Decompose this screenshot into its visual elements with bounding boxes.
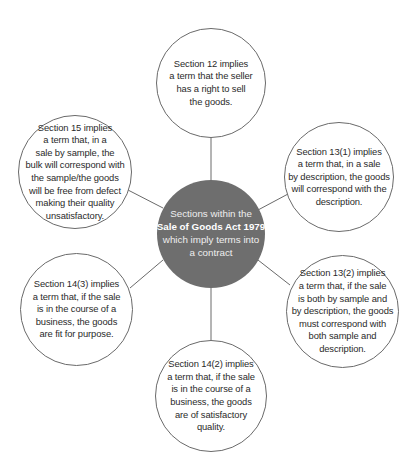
text-line: Section 14(3) implies [33, 278, 121, 291]
text-line: is both by sample and [292, 293, 394, 306]
text-line: both sample and [292, 330, 394, 343]
text-line: Section 12 implies [169, 58, 252, 71]
text-line: a contract [157, 247, 266, 260]
text-line: are fit for purpose. [33, 328, 121, 341]
text-line: business, the goods [33, 316, 121, 329]
text-line: will correspond with the [288, 183, 390, 196]
node-section-13-1-text: Section 13(1) implies a term that, in a … [282, 146, 396, 209]
text-line: unsatisfactory. [25, 210, 124, 223]
node-section-14-3: Section 14(3) implies a term that, if th… [20, 253, 133, 366]
text-line: has a right to sell [169, 83, 252, 96]
text-line: quality. [167, 421, 255, 434]
text-line: a term that, in a [25, 134, 124, 147]
node-section-15: Section 15 implies a term that, in a sal… [18, 115, 132, 229]
text-line: making their quality [25, 197, 124, 210]
text-line: description. [292, 343, 394, 356]
text-line: by description, the goods [288, 171, 390, 184]
text-line: sale by sample, the [25, 147, 124, 160]
text-line: by description, the goods [292, 305, 394, 318]
node-section-14-3-text: Section 14(3) implies a term that, if th… [27, 278, 127, 341]
text-line: a term that, if the sale [292, 280, 394, 293]
text-line: a term that the seller [169, 70, 252, 83]
act-title: Sale of Goods Act 1979 [157, 221, 266, 234]
text-line: a term that, in a sale [288, 158, 390, 171]
node-section-14-2: Section 14(2) implies a term that, if th… [155, 340, 267, 452]
text-line: which imply terms into [157, 234, 266, 247]
center-hub-text: Sections within the Sale of Goods Act 19… [151, 208, 272, 259]
node-section-12: Section 12 implies a term that the selle… [156, 28, 266, 138]
text-line: a term that, if the sale [167, 371, 255, 384]
text-line: the sample/the goods [25, 172, 124, 185]
text-line: must correspond with [292, 318, 394, 331]
node-section-13-2-text: Section 13(2) implies a term that, if th… [286, 267, 400, 355]
text-line: Section 13(1) implies [288, 146, 390, 159]
text-line: will be free from defect [25, 185, 124, 198]
text-line: Section 14(2) implies [167, 358, 255, 371]
node-section-14-2-text: Section 14(2) implies a term that, if th… [161, 358, 261, 434]
node-section-12-text: Section 12 implies a term that the selle… [163, 58, 258, 108]
connector-upper-left [128, 190, 163, 208]
text-line: business, the goods [167, 396, 255, 409]
text-line: is in the course of a [167, 383, 255, 396]
text-line: are of satisfactory [167, 409, 255, 422]
text-line: the goods. [169, 96, 252, 109]
connector-lower-left [130, 260, 163, 288]
spider-diagram: Section 12 implies a term that the selle… [0, 0, 416, 476]
text-line: Section 15 implies [25, 122, 124, 135]
text-line: Section 13(2) implies [292, 267, 394, 280]
node-section-13-2: Section 13(2) implies a term that, if th… [286, 255, 399, 368]
text-line: bulk will correspond with [25, 159, 124, 172]
node-section-13-1: Section 13(1) implies a term that, in a … [284, 122, 394, 232]
text-line: description. [288, 196, 390, 209]
text-line: a term that, if the sale [33, 291, 121, 304]
node-section-15-text: Section 15 implies a term that, in a sal… [19, 122, 130, 223]
text-line: Sections within the [157, 208, 266, 221]
text-line: is in the course of a [33, 303, 121, 316]
center-hub: Sections within the Sale of Goods Act 19… [157, 180, 265, 288]
